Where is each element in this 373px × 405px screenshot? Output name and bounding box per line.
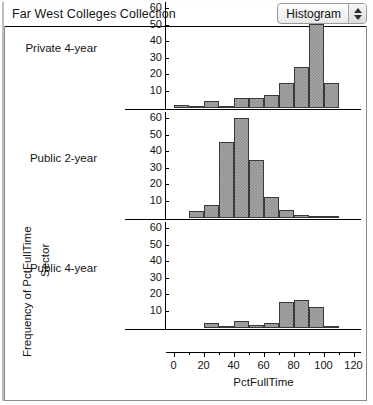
histogram-bar[interactable] [264, 197, 279, 218]
histogram-bar[interactable] [294, 300, 309, 328]
histogram-bar[interactable] [174, 105, 189, 108]
y-tick-label: 20 [150, 67, 162, 79]
x-axis-minor-tick [189, 352, 190, 355]
x-axis-tick [174, 352, 175, 357]
y-tick-label: 20 [150, 287, 162, 299]
histogram-bar[interactable] [249, 325, 264, 328]
histogram-bar[interactable] [309, 307, 324, 328]
x-axis-tick [204, 352, 205, 357]
y-tick-label: 10 [150, 194, 162, 206]
x-tick-label: 0 [170, 359, 176, 371]
histogram-bar[interactable] [309, 24, 324, 108]
histogram-bar[interactable] [189, 106, 204, 108]
histogram-panel: Public 2-year102030405060 [125, 110, 361, 220]
x-axis: 020406080100120 PctFullTime [125, 352, 361, 398]
histogram-bar[interactable] [264, 95, 279, 108]
y-tick-label: 30 [150, 51, 162, 63]
histogram-bar[interactable] [279, 83, 294, 108]
histogram-bar[interactable] [189, 211, 204, 218]
histogram-bar[interactable] [324, 216, 339, 218]
y-tick-label: 60 [150, 111, 162, 123]
y-axis-group-label: Frequency of PctFullTime [21, 226, 33, 357]
bar-series [166, 221, 361, 328]
y-tick-label: 50 [150, 18, 162, 30]
histogram-bar[interactable] [294, 67, 309, 108]
y-tick-label: 40 [150, 144, 162, 156]
x-axis-minor-tick [279, 352, 280, 355]
x-axis-minor-tick [339, 352, 340, 355]
bar-series [166, 1, 361, 108]
y-tick-label: 10 [150, 84, 162, 96]
histogram-panels: Private 4-year102030405060Public 2-year1… [125, 0, 361, 352]
y-tick-label: 20 [150, 177, 162, 189]
histogram-panel: Private 4-year102030405060 [125, 0, 361, 110]
x-axis-tick [234, 352, 235, 357]
y-tick-label: 60 [150, 1, 162, 13]
histogram-bar[interactable] [234, 98, 249, 108]
x-axis-tick [354, 352, 355, 357]
x-tick-label: 60 [257, 359, 269, 371]
histogram-window: Far West Colleges Collection Histogram F… [0, 0, 373, 405]
histogram-bar[interactable] [219, 326, 234, 328]
y-tick-label: 50 [150, 128, 162, 140]
histogram-bar[interactable] [204, 101, 219, 108]
histogram-bar[interactable] [324, 83, 339, 108]
x-axis-minor-tick [219, 352, 220, 355]
histogram-bar[interactable] [324, 326, 339, 328]
x-axis-minor-tick [249, 352, 250, 355]
histogram-bar[interactable] [219, 142, 234, 218]
histogram-bar[interactable] [204, 205, 219, 218]
y-tick-label: 10 [150, 304, 162, 316]
histogram-bar[interactable] [249, 98, 264, 108]
x-axis-title: PctFullTime [166, 376, 361, 388]
x-tick-label: 40 [227, 359, 239, 371]
x-tick-label: 100 [314, 359, 332, 371]
histogram-bar[interactable] [249, 160, 264, 218]
histogram-bar[interactable] [309, 216, 324, 218]
x-tick-label: 80 [287, 359, 299, 371]
histogram-bar[interactable] [279, 302, 294, 328]
y-tick-label: 50 [150, 238, 162, 250]
x-axis-tick [324, 352, 325, 357]
histogram-bar[interactable] [264, 323, 279, 328]
y-tick-label: 30 [150, 161, 162, 173]
panel-group-label: Public 2-year [30, 152, 97, 164]
y-tick-label: 60 [150, 221, 162, 233]
x-axis-tick [264, 352, 265, 357]
x-axis-tick [294, 352, 295, 357]
bar-series [166, 111, 361, 218]
x-tick-label: 120 [344, 359, 362, 371]
y-tick-label: 40 [150, 34, 162, 46]
histogram-bar[interactable] [204, 323, 219, 328]
histogram-bar[interactable] [234, 321, 249, 328]
histogram-bar[interactable] [234, 118, 249, 218]
x-axis-minor-tick [309, 352, 310, 355]
x-tick-label: 20 [197, 359, 209, 371]
y-tick-label: 40 [150, 254, 162, 266]
histogram-panel: Public 4-year102030405060 [125, 220, 361, 330]
y-tick-label: 30 [150, 271, 162, 283]
histogram-bar[interactable] [279, 210, 294, 218]
histogram-bar[interactable] [294, 215, 309, 218]
panel-group-label: Public 4-year [30, 262, 97, 274]
histogram-bar[interactable] [219, 106, 234, 108]
panel-group-label: Private 4-year [25, 42, 97, 54]
